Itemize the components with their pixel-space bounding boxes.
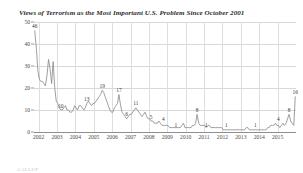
y-tick-label: 20 — [24, 85, 30, 91]
chart-card: Views of Terrorism as the Most Important… — [0, 0, 303, 173]
x-tick-label: 2014 — [254, 134, 265, 140]
x-tick-label: 2005 — [88, 134, 99, 140]
y-tick-label: 10 — [24, 107, 30, 113]
x-tick-label: 2004 — [70, 134, 81, 140]
y-tick-label: 30 — [24, 63, 30, 69]
y-tick-label: 40 — [24, 41, 30, 47]
x-tick-label: 2002 — [33, 134, 44, 140]
plot-wrapper: 01020304050 461013191761154181114816 200… — [14, 22, 297, 138]
chart-title: Views of Terrorism as the Most Important… — [19, 9, 284, 18]
x-tick-label: 2015 — [272, 134, 283, 140]
source-watermark: GALLUP — [17, 167, 39, 172]
y-tick-label: 50 — [24, 19, 30, 25]
x-tick-label: 2007 — [125, 134, 136, 140]
x-tick-label: 2009 — [162, 134, 173, 140]
gridline-y-0 — [34, 132, 296, 133]
x-tick-label: 2008 — [143, 134, 154, 140]
y-tick-label: 0 — [27, 129, 30, 135]
line-series — [34, 22, 296, 132]
x-tick-label: 2010 — [180, 134, 191, 140]
y-axis: 01020304050 — [14, 22, 34, 132]
series-polyline — [35, 31, 296, 130]
x-tick-label: 2003 — [51, 134, 62, 140]
x-axis: 2002200320042005200620072008200920102011… — [34, 134, 296, 146]
x-tick-label: 2012 — [217, 134, 228, 140]
x-tick-label: 2013 — [235, 134, 246, 140]
plot-area: 461013191761154181114816 — [34, 22, 296, 132]
x-tick-label: 2006 — [107, 134, 118, 140]
x-tick-label: 2011 — [199, 134, 210, 140]
